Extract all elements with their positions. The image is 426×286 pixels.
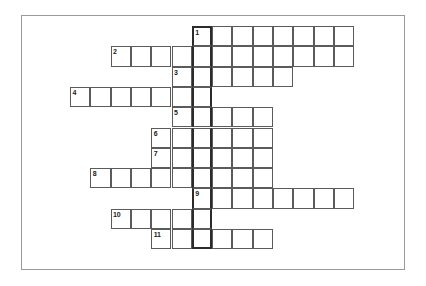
crossword-cell[interactable] [131, 168, 151, 188]
crossword-cell[interactable] [212, 168, 232, 188]
clue-number: 3 [174, 68, 178, 77]
crossword-cell[interactable]: 7 [151, 148, 171, 168]
clue-number: 11 [154, 230, 161, 239]
crossword-cell[interactable] [232, 128, 252, 148]
crossword-cell[interactable] [314, 188, 334, 208]
crossword-cell[interactable] [334, 46, 354, 66]
crossword-cell[interactable] [273, 67, 293, 87]
clue-number: 7 [154, 149, 158, 158]
crossword-cell[interactable] [212, 148, 232, 168]
crossword-cell[interactable] [212, 107, 232, 127]
clue-number: 8 [93, 169, 97, 178]
crossword-grid[interactable]: 1234567891011 [0, 0, 426, 286]
clue-number: 9 [195, 189, 199, 198]
crossword-cell[interactable] [253, 67, 273, 87]
crossword-cell[interactable] [212, 67, 232, 87]
crossword-cell[interactable] [131, 87, 151, 107]
crossword-cell[interactable] [111, 87, 131, 107]
clue-number: 6 [154, 129, 158, 138]
crossword-cell[interactable] [334, 188, 354, 208]
crossword-cell[interactable] [253, 26, 273, 46]
crossword-cell[interactable] [293, 46, 313, 66]
crossword-cell[interactable] [151, 46, 171, 66]
crossword-cell[interactable]: 4 [70, 87, 90, 107]
crossword-cell[interactable] [232, 46, 252, 66]
crossword-cell[interactable] [172, 209, 192, 229]
crossword-cell[interactable] [212, 26, 232, 46]
crossword-page: 1234567891011 [0, 0, 426, 286]
crossword-cell[interactable] [212, 46, 232, 66]
crossword-cell[interactable] [314, 46, 334, 66]
crossword-cell[interactable]: 1 [192, 26, 212, 46]
crossword-cell[interactable] [151, 209, 171, 229]
crossword-cell[interactable] [172, 168, 192, 188]
crossword-cell[interactable] [172, 128, 192, 148]
crossword-cell[interactable] [212, 128, 232, 148]
crossword-cell[interactable] [232, 107, 252, 127]
crossword-cell[interactable] [212, 229, 232, 249]
crossword-cell[interactable] [172, 87, 192, 107]
clue-number: 1 [195, 28, 199, 37]
crossword-cell[interactable]: 10 [111, 209, 131, 229]
crossword-cell[interactable] [172, 148, 192, 168]
crossword-cell[interactable] [172, 229, 192, 249]
crossword-cell[interactable] [232, 188, 252, 208]
crossword-cell[interactable] [131, 209, 151, 229]
clue-number: 4 [73, 88, 77, 97]
crossword-cell[interactable] [293, 188, 313, 208]
crossword-cell[interactable] [253, 229, 273, 249]
crossword-cell[interactable] [192, 67, 212, 87]
crossword-cell[interactable] [293, 26, 313, 46]
crossword-cell[interactable] [253, 148, 273, 168]
crossword-cell[interactable] [253, 168, 273, 188]
crossword-cell[interactable]: 6 [151, 128, 171, 148]
crossword-cell[interactable]: 3 [172, 67, 192, 87]
crossword-cell[interactable] [253, 46, 273, 66]
clue-number: 2 [113, 47, 117, 56]
crossword-cell[interactable] [192, 148, 212, 168]
crossword-cell[interactable]: 11 [151, 229, 171, 249]
crossword-cell[interactable] [232, 26, 252, 46]
crossword-cell[interactable] [273, 26, 293, 46]
crossword-cell[interactable] [212, 188, 232, 208]
crossword-cell[interactable] [334, 26, 354, 46]
crossword-cell[interactable] [151, 168, 171, 188]
crossword-cell[interactable] [253, 128, 273, 148]
crossword-cell[interactable] [253, 188, 273, 208]
crossword-cell[interactable] [192, 168, 212, 188]
crossword-cell[interactable] [172, 46, 192, 66]
crossword-cell[interactable] [232, 148, 252, 168]
crossword-cell[interactable] [151, 87, 171, 107]
crossword-cell[interactable] [273, 46, 293, 66]
crossword-cell[interactable]: 8 [90, 168, 110, 188]
crossword-cell[interactable] [232, 229, 252, 249]
crossword-cell[interactable] [111, 168, 131, 188]
crossword-cell[interactable]: 9 [192, 188, 212, 208]
crossword-cell[interactable] [232, 67, 252, 87]
crossword-cell[interactable] [131, 46, 151, 66]
crossword-cell[interactable] [232, 168, 252, 188]
crossword-cell[interactable] [253, 107, 273, 127]
clue-number: 5 [174, 108, 178, 117]
crossword-cell[interactable]: 5 [172, 107, 192, 127]
crossword-cell[interactable] [192, 128, 212, 148]
crossword-cell[interactable] [314, 26, 334, 46]
crossword-cell[interactable] [192, 209, 212, 229]
crossword-cell[interactable] [192, 87, 212, 107]
crossword-cell[interactable] [192, 46, 212, 66]
crossword-cell[interactable] [273, 188, 293, 208]
crossword-cell[interactable]: 2 [111, 46, 131, 66]
crossword-cell[interactable] [90, 87, 110, 107]
crossword-cell[interactable] [192, 229, 212, 249]
clue-number: 10 [113, 210, 120, 219]
crossword-cell[interactable] [192, 107, 212, 127]
